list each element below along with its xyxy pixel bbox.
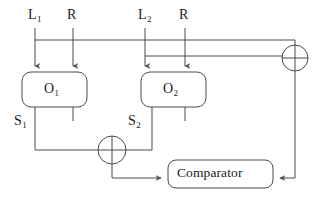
input-label-r2: R (179, 8, 189, 24)
input-label-l2: L2 (138, 8, 151, 24)
wire-xor-middle-to-comparator (112, 164, 161, 178)
input-label-l1: L1 (28, 8, 41, 24)
block-label-comparator: Comparator (177, 166, 242, 180)
block-label-o1: O1 (44, 82, 59, 98)
input-label-r1: R (67, 8, 77, 24)
wire-xor-right-to-comparator (280, 71, 295, 178)
wire-s1-path (35, 107, 98, 150)
signal-label-s1: S1 (14, 114, 27, 130)
signal-label-s2: S2 (128, 114, 141, 130)
block-diagram-canvas: L1 R L2 R O1 O2 S1 S2 Comparator (0, 0, 321, 204)
block-label-o2: O2 (163, 82, 178, 98)
diagram-vector-layer (0, 0, 321, 204)
